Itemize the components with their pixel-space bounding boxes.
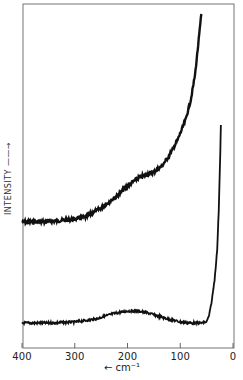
x-tick-label: 300 [65,351,85,362]
y-axis-label: INTENSITY ——→ [4,142,13,215]
x-axis-ticks [22,343,233,348]
x-axis-label: ← cm⁻¹ [104,362,140,373]
upper-spectrum-line [22,14,201,224]
x-tick-label: 400 [12,351,32,362]
x-tick-label: 200 [118,351,138,362]
spectrum-chart [0,0,243,380]
plot-frame [23,4,234,348]
x-tick-label: 100 [170,351,190,362]
x-tick-label: 0 [230,351,237,362]
